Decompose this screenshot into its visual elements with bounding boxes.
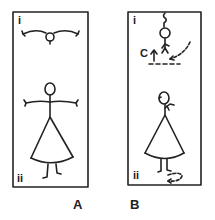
panel-b-bottom-figure <box>145 92 184 172</box>
panel-b-rotation-arrow <box>168 173 182 183</box>
panel-b-annotation-c: C <box>140 47 148 59</box>
panel-a-bottom-figure <box>24 83 78 178</box>
panel-b-up-arrow <box>151 50 157 61</box>
panel-b-top-figure <box>160 13 170 53</box>
panel-b-caption: B <box>130 197 139 212</box>
panel-a <box>13 12 88 187</box>
diagram-canvas: i ii A i ii C B <box>0 0 215 220</box>
panel-b <box>128 12 201 185</box>
panel-a-label-i: i <box>18 14 21 26</box>
panel-b-label-ii: ii <box>133 169 139 181</box>
panel-b-curved-arrow <box>170 42 190 60</box>
panel-b-label-i: i <box>133 14 136 26</box>
panel-a-label-ii: ii <box>17 172 23 184</box>
panel-a-top-figure <box>22 31 79 44</box>
panel-a-caption: A <box>73 197 83 212</box>
